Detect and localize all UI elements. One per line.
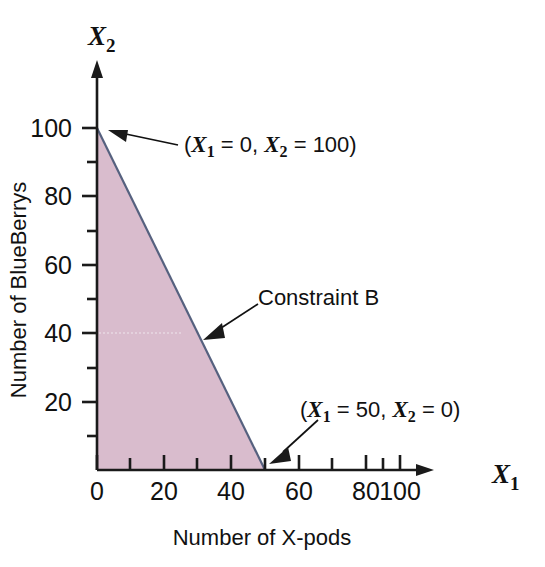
annotation-y-intercept-leader xyxy=(121,133,178,145)
annotation-constraint-b-text: Constraint B xyxy=(258,285,379,310)
x-tick-label-40: 40 xyxy=(217,477,245,505)
y-axis-symbol: X2 xyxy=(87,21,116,56)
constraint-graph-figure: 100 80 60 40 20 0 20 40 60 80 100 X2 X1 … xyxy=(0,0,545,567)
annot1-end: = 100) xyxy=(288,132,357,157)
annot1-var2: X xyxy=(263,132,280,157)
x-axis-symbol-letter: X xyxy=(491,459,511,489)
x-axis-symbol: X1 xyxy=(491,459,520,494)
x-tick-label-100: 100 xyxy=(379,477,421,505)
y-axis-title: Number of BlueBerrys xyxy=(6,182,31,398)
annot2-mid: = 50, xyxy=(331,397,393,422)
annotation-y-intercept-text: (X1 = 0, X2 = 100) xyxy=(184,132,357,160)
annotation-x-intercept-leader xyxy=(283,420,318,452)
y-tick-label-40: 40 xyxy=(44,319,72,347)
x-axis-symbol-subscript: 1 xyxy=(510,473,520,494)
annot1-mid: = 0, xyxy=(215,132,265,157)
y-tick-label-100: 100 xyxy=(30,114,72,142)
y-tick-label-20: 20 xyxy=(44,388,72,416)
x-tick-label-0: 0 xyxy=(90,477,104,505)
x-axis-title: Number of X-pods xyxy=(173,525,352,550)
annot1-sub1: 1 xyxy=(207,143,215,160)
x-axis-arrow-icon xyxy=(416,464,434,476)
annotation-y-intercept-arrow-icon xyxy=(108,130,128,142)
annot1-sub2: 2 xyxy=(280,143,288,160)
annot2-var1: X xyxy=(306,397,323,422)
annot2-sub1: 1 xyxy=(323,408,331,425)
annotation-constraint-b-arrow-icon xyxy=(203,323,225,340)
x-tick-label-20: 20 xyxy=(150,477,178,505)
annotation-constraint-b-leader xyxy=(218,304,258,330)
y-axis-symbol-letter: X xyxy=(87,21,107,51)
annotation-y-intercept: (X1 = 0, X2 = 100) xyxy=(108,130,357,160)
y-axis-arrow-icon xyxy=(91,60,103,78)
y-tick-label-80: 80 xyxy=(44,182,72,210)
y-axis-symbol-subscript: 2 xyxy=(106,35,116,56)
plot-svg: 100 80 60 40 20 0 20 40 60 80 100 X2 X1 … xyxy=(0,0,545,567)
annotation-constraint-b: Constraint B xyxy=(203,285,379,340)
annot2-var2: X xyxy=(391,397,408,422)
annot2-sub2: 2 xyxy=(408,408,416,425)
annot1-var1: X xyxy=(190,132,207,157)
annot2-end: = 0) xyxy=(416,397,461,422)
annotation-x-intercept: (X1 = 50, X2 = 0) xyxy=(269,397,460,464)
annotation-x-intercept-text: (X1 = 50, X2 = 0) xyxy=(300,397,460,425)
annotation-x-intercept-arrow-icon xyxy=(269,447,291,464)
x-tick-label-80: 80 xyxy=(352,477,380,505)
y-tick-label-60: 60 xyxy=(44,251,72,279)
x-tick-label-60: 60 xyxy=(285,477,313,505)
